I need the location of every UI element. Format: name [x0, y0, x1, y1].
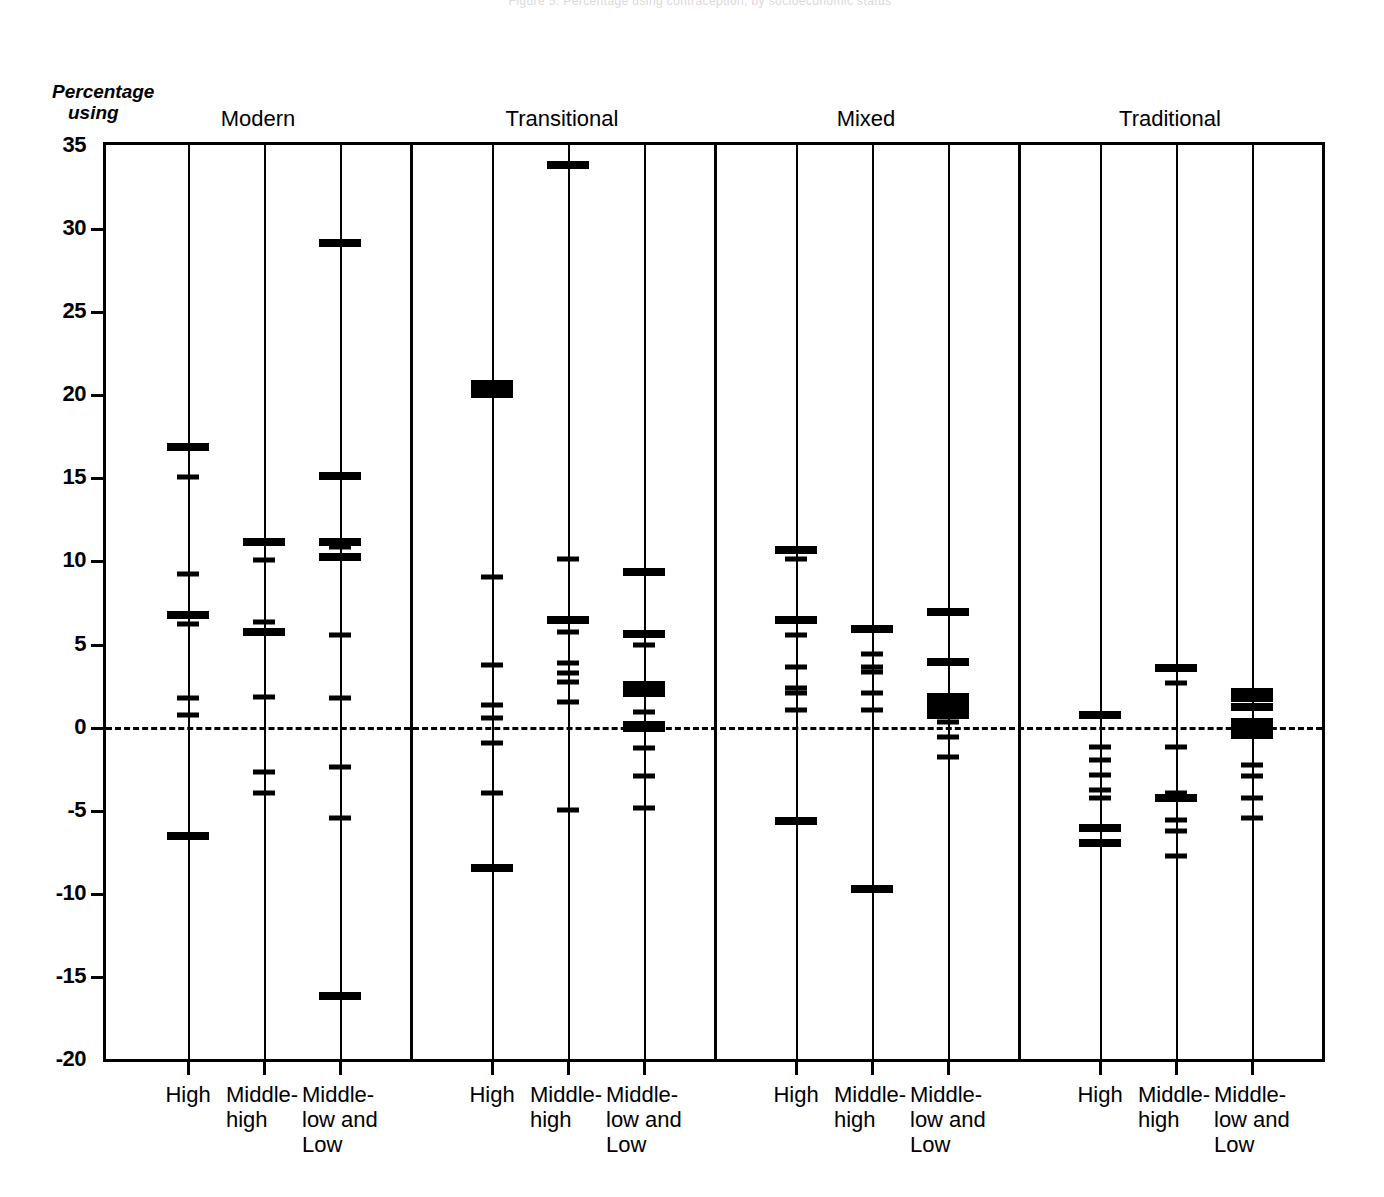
data-point-mark — [177, 713, 199, 718]
data-point-mark — [775, 546, 817, 554]
y-axis-tick-label: -20 — [28, 1046, 86, 1072]
data-point-mark — [253, 769, 275, 774]
data-point-mark — [557, 699, 579, 704]
y-axis-tick — [91, 644, 103, 647]
group-title-modern: Modern — [221, 106, 296, 132]
data-point-mark — [253, 694, 275, 699]
data-point-mark — [319, 472, 361, 480]
data-point-mark — [547, 161, 589, 169]
data-point-mark — [319, 992, 361, 1000]
data-point-mark — [481, 703, 503, 708]
x-axis-tick — [871, 1062, 874, 1075]
data-point-mark — [243, 538, 285, 546]
data-point-mark — [1089, 757, 1111, 762]
category-strip-line — [872, 145, 874, 1059]
group-separator — [1018, 145, 1021, 1059]
data-point-mark — [557, 679, 579, 684]
data-point-mark — [623, 681, 665, 689]
data-point-mark — [623, 724, 665, 732]
x-axis-label-middle-low-and-low: Middle- low and Low — [1214, 1082, 1290, 1157]
data-point-mark — [1155, 664, 1197, 672]
category-strip-line — [948, 145, 950, 1059]
data-point-mark — [1079, 824, 1121, 832]
data-point-mark — [1241, 796, 1263, 801]
data-point-mark — [471, 864, 513, 872]
category-strip-line — [492, 145, 494, 1059]
plot-area — [103, 142, 1325, 1062]
x-axis-tick — [187, 1062, 190, 1075]
group-title-traditional: Traditional — [1119, 106, 1221, 132]
data-point-mark — [623, 689, 665, 697]
data-point-mark — [319, 239, 361, 247]
data-point-mark — [1089, 787, 1111, 792]
y-axis-tick-label: 0 — [28, 714, 86, 740]
data-point-mark — [557, 629, 579, 634]
y-axis-tick — [91, 311, 103, 314]
y-axis-tick — [91, 477, 103, 480]
data-point-mark — [557, 671, 579, 676]
data-point-mark — [1089, 744, 1111, 749]
data-point-mark — [1231, 703, 1273, 711]
data-point-mark — [481, 791, 503, 796]
data-point-mark — [253, 791, 275, 796]
data-point-mark — [1165, 854, 1187, 859]
data-point-mark — [243, 628, 285, 636]
data-point-mark — [785, 556, 807, 561]
data-point-mark — [481, 663, 503, 668]
data-point-mark — [775, 817, 817, 825]
data-point-mark — [633, 709, 655, 714]
y-axis-tick-label: 10 — [28, 547, 86, 573]
x-axis-label-middle-high: Middle- high — [834, 1082, 906, 1132]
x-axis-tick — [339, 1062, 342, 1075]
data-point-mark — [319, 553, 361, 561]
y-axis-tick-label: 20 — [28, 381, 86, 407]
category-strip-line — [188, 145, 190, 1059]
data-point-mark — [785, 664, 807, 669]
data-point-mark — [167, 443, 209, 451]
data-point-mark — [927, 608, 969, 616]
data-point-mark — [329, 545, 351, 550]
data-point-mark — [927, 711, 969, 719]
data-point-mark — [937, 754, 959, 759]
category-strip-line — [340, 145, 342, 1059]
group-separator — [714, 145, 717, 1059]
plot-inner — [106, 145, 1322, 1059]
data-point-mark — [1079, 839, 1121, 847]
data-point-mark — [623, 630, 665, 638]
category-strip-line — [1100, 145, 1102, 1059]
data-point-mark — [329, 764, 351, 769]
data-point-mark — [177, 696, 199, 701]
y-axis-tick — [91, 394, 103, 397]
y-axis-tick-label: 5 — [28, 631, 86, 657]
data-point-mark — [1165, 681, 1187, 686]
data-point-mark — [1079, 711, 1121, 719]
data-point-mark — [851, 625, 893, 633]
x-axis-tick — [567, 1062, 570, 1075]
data-point-mark — [861, 691, 883, 696]
data-point-mark — [623, 568, 665, 576]
data-point-mark — [177, 475, 199, 480]
group-separator — [410, 145, 413, 1059]
x-axis-tick — [643, 1062, 646, 1075]
data-point-mark — [481, 741, 503, 746]
x-axis-tick — [1251, 1062, 1254, 1075]
data-point-mark — [557, 807, 579, 812]
data-point-mark — [775, 616, 817, 624]
data-point-mark — [1155, 794, 1197, 802]
group-title-mixed: Mixed — [837, 106, 896, 132]
data-point-mark — [785, 708, 807, 713]
data-point-mark — [1089, 772, 1111, 777]
y-axis-tick-label: 25 — [28, 298, 86, 324]
y-axis-tick — [91, 560, 103, 563]
data-point-mark — [937, 734, 959, 739]
group-title-transitional: Transitional — [506, 106, 619, 132]
figure-container: Figure 5. Percentage using contraception… — [0, 0, 1384, 1197]
data-point-mark — [1165, 829, 1187, 834]
data-point-mark — [861, 708, 883, 713]
data-point-mark — [937, 719, 959, 724]
y-axis-tick-label: -10 — [28, 880, 86, 906]
data-point-mark — [1165, 744, 1187, 749]
data-point-mark — [471, 390, 513, 398]
data-point-mark — [177, 621, 199, 626]
data-point-mark — [851, 885, 893, 893]
